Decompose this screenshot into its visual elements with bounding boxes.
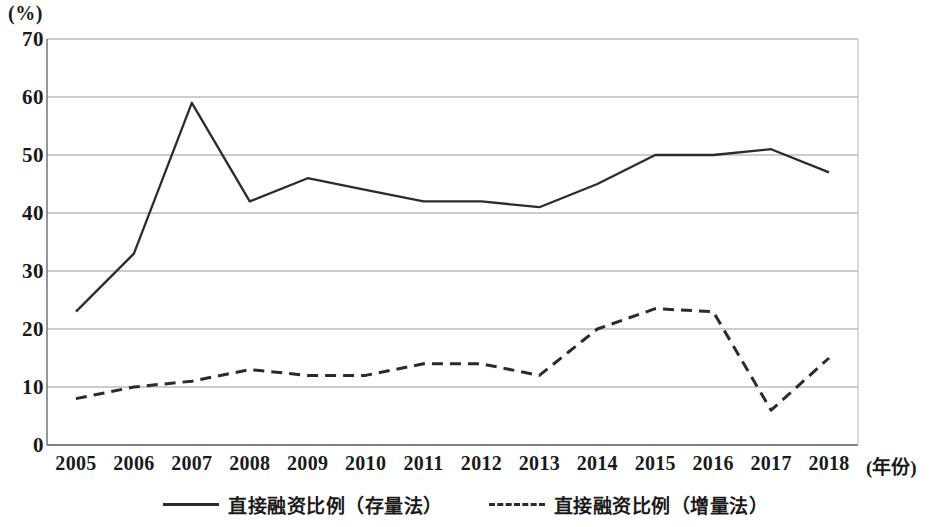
x-axis-tick-label: 2015 bbox=[635, 452, 676, 475]
legend-dashed-line-icon bbox=[489, 503, 545, 506]
y-axis-tick-label: 60 bbox=[0, 85, 44, 110]
x-axis-tick-label: 2014 bbox=[577, 452, 618, 475]
plot-area bbox=[0, 0, 931, 470]
x-axis-tick-label: 2010 bbox=[345, 452, 386, 475]
x-axis-ticks: 2005200620072008200920102011201220132014… bbox=[0, 452, 931, 482]
x-axis-tick-label: 2008 bbox=[229, 452, 270, 475]
x-axis-tick-label: 2006 bbox=[113, 452, 154, 475]
chart-canvas bbox=[0, 0, 931, 470]
y-axis-tick-label: 50 bbox=[0, 143, 44, 168]
chart-legend: 直接融资比例（存量法） 直接融资比例（增量法） bbox=[0, 487, 931, 521]
legend-item-incremental[interactable]: 直接融资比例（增量法） bbox=[489, 491, 769, 518]
legend-item-label: 直接融资比例（增量法） bbox=[554, 491, 769, 518]
y-axis-ticks: 010203040506070 bbox=[0, 0, 44, 470]
y-axis-tick-label: 10 bbox=[0, 375, 44, 400]
x-axis-tick-label: 2018 bbox=[808, 452, 849, 475]
x-axis-tick-label: 2012 bbox=[461, 452, 502, 475]
x-axis-tick-label: 2009 bbox=[287, 452, 328, 475]
x-axis-tick-label: 2017 bbox=[750, 452, 791, 475]
legend-item-label: 直接融资比例（存量法） bbox=[228, 491, 443, 518]
x-axis-tick-label: 2013 bbox=[519, 452, 560, 475]
y-axis-tick-label: 70 bbox=[0, 27, 44, 52]
x-axis-tick-label: 2011 bbox=[403, 452, 443, 475]
y-axis-tick-label: 20 bbox=[0, 317, 44, 342]
x-axis-tick-label: 2005 bbox=[55, 452, 96, 475]
legend-item-stock[interactable]: 直接融资比例（存量法） bbox=[163, 491, 443, 518]
legend-solid-line-icon bbox=[163, 503, 219, 506]
y-axis-tick-label: 30 bbox=[0, 259, 44, 284]
series-line-incremental bbox=[76, 309, 829, 411]
x-axis-tick-label: 2016 bbox=[693, 452, 734, 475]
x-axis-tick-label: 2007 bbox=[171, 452, 212, 475]
x-axis-title: (年份) bbox=[866, 452, 917, 479]
y-axis-tick-label: 40 bbox=[0, 201, 44, 226]
chart-figure: (%) 010203040506070 20052006200720082009… bbox=[0, 0, 931, 527]
series-line-stock bbox=[76, 103, 829, 312]
